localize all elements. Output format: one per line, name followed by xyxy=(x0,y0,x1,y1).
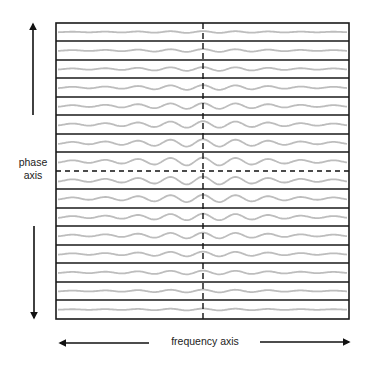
phase-axis-label: phase axis xyxy=(8,156,58,182)
wavelet-phase-frequency-diagram xyxy=(0,0,368,365)
frequency-axis-label: frequency axis xyxy=(160,335,250,348)
wave-trace xyxy=(58,290,347,293)
wave-trace xyxy=(58,31,347,33)
wave-trace xyxy=(58,49,347,52)
phase-axis-label-line1: phase xyxy=(8,156,58,169)
phase-axis-label-line2: axis xyxy=(8,169,58,182)
